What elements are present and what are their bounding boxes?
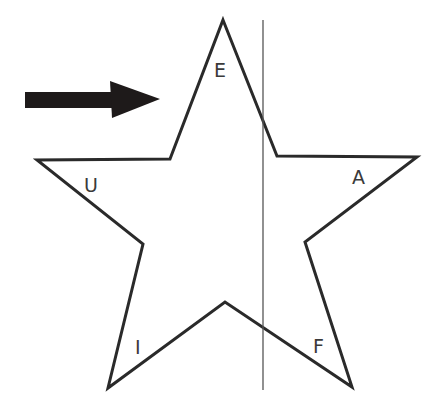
label-bottom-right: F: [313, 335, 324, 357]
label-top: E: [214, 59, 226, 81]
arrow-right-icon: [25, 81, 160, 118]
label-bottom-left: I: [135, 336, 141, 358]
label-right: A: [352, 166, 365, 188]
star-outline: [37, 20, 417, 388]
star-diagram: E U A I F: [0, 0, 441, 404]
label-left: U: [84, 174, 98, 196]
